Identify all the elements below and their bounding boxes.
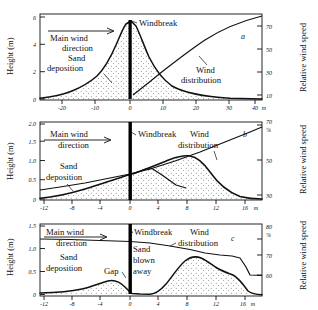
panel-c-gap-label: Gap	[104, 266, 118, 276]
panel-b-xtick-3: 0	[129, 205, 132, 211]
panel-a-xtick-3: 10	[160, 105, 166, 111]
panel-a-sand-label: Sand	[68, 53, 86, 63]
panel-c-ytick-3: 1.5	[29, 223, 37, 229]
panel-c-main-wind-label: Main wind	[46, 227, 85, 237]
panel-c-y-axis-title: Height (m)	[5, 238, 15, 276]
panel-b-xtick-2: -4	[98, 205, 103, 211]
panel-c-blown-label: blown	[133, 255, 155, 265]
panel-b-distribution-label: distribution	[178, 140, 219, 150]
panel-c-xtick-3: 0	[129, 301, 132, 307]
panel-b-windbreak-post	[129, 122, 132, 200]
panel-b-wind-label: Wind	[190, 129, 210, 139]
panel-c-letter: c	[231, 234, 235, 243]
panel-b-xtick-4: 4	[157, 205, 160, 211]
panel-c-deposition-label: deposition	[46, 263, 83, 273]
panel-a-x-axis: -20 -10 0 10 20 30 40 m	[58, 100, 267, 111]
panel-c-y2tick-0: 60	[266, 273, 272, 279]
panel-b-y2tick-0: 30	[265, 193, 272, 199]
panel-c-xtick-5: 8	[186, 301, 189, 307]
panel-a-y2tick-2: 50	[266, 47, 272, 53]
panel-c-xtick-4: 4	[157, 301, 160, 307]
panel-a-wind-label: Wind	[196, 65, 216, 75]
panel-a: 0 2 4 6 10 30 50 70	[0, 0, 318, 112]
panel-b-xtick-6: 12	[213, 205, 219, 211]
panel-c: 0 0.5 1.0 1.5 60 70 80 %	[0, 212, 318, 310]
panel-a-xtick-0: -20	[58, 105, 66, 111]
panel-b-xtick-5: 8	[186, 205, 189, 211]
panel-a-xtick-4: 20	[193, 105, 199, 111]
panel-c-y2tick-1: 70	[266, 253, 272, 259]
panel-b-xtick-7: 16	[242, 205, 248, 211]
panel-c-xtick-1: -8	[70, 301, 75, 307]
panel-b-xtick-1: -8	[70, 205, 75, 211]
windbreak-figure: 0 2 4 6 10 30 50 70	[0, 0, 318, 310]
panel-a-xtick-2: 0	[129, 105, 132, 111]
panel-b-plot: 0 0.5 1.0 1.5 2.0 30 50 70 %	[0, 112, 318, 212]
panel-c-x-axis: -12 -8 -4 0 4 8 12 16 m	[40, 296, 256, 307]
panel-a-ytick-1: 2	[33, 69, 36, 75]
panel-b-y-axis-title: Height (m)	[5, 142, 15, 180]
panel-b-xtick-0: -12	[40, 205, 48, 211]
panel-c-y2-unit: %	[266, 232, 271, 238]
panel-a-y-axis-title: Height (m)	[5, 37, 15, 75]
panel-c-y2-axis: 60 70 80 %	[257, 224, 272, 279]
panel-b: 0 0.5 1.0 1.5 2.0 30 50 70 %	[0, 112, 318, 212]
panel-c-xtick-0: -12	[40, 301, 48, 307]
panel-c-ytick-2: 1.0	[29, 246, 37, 252]
panel-c-y2-axis-title: Relative wind speed	[298, 220, 308, 290]
panel-b-windbreak-label: Windbreak	[138, 129, 177, 139]
panel-b-direction-label: direction	[58, 140, 90, 150]
panel-b-y2-axis: 30 50 70 %	[257, 119, 272, 199]
panel-b-y2-axis-title: Relative wind speed	[298, 124, 308, 194]
panel-a-deposition-label: deposition	[47, 63, 84, 73]
panel-a-ytick-0: 0	[33, 97, 36, 103]
panel-a-main-wind-label: Main wind	[50, 33, 89, 43]
panel-a-ytick-2: 4	[33, 42, 36, 48]
panel-c-x-unit: m	[251, 301, 256, 307]
panel-a-y2tick-3: 70	[266, 24, 272, 30]
panel-b-ytick-1: 0.5	[29, 177, 37, 183]
panel-b-ytick-4: 2.0	[29, 121, 37, 127]
panel-c-direction-label: direction	[56, 238, 88, 248]
panel-a-ytick-3: 6	[33, 15, 36, 21]
panel-a-y2tick-1: 30	[265, 70, 272, 76]
panel-a-xtick-1: -10	[91, 105, 99, 111]
panel-a-xtick-6: 40	[252, 105, 258, 111]
panel-a-y-axis: 0 2 4 6	[33, 15, 45, 103]
panel-c-y2tick-2: 80	[266, 224, 272, 230]
panel-c-ytick-0: 0	[33, 292, 36, 298]
panel-a-xtick-5: 30	[225, 105, 232, 111]
panel-a-letter: a	[241, 32, 245, 41]
panel-a-x-unit: m	[262, 105, 267, 111]
panel-a-y2-axis-title: Relative wind speed	[298, 22, 308, 92]
panel-b-y2tick-2: 70	[266, 119, 272, 125]
panel-c-sand-label: Sand	[60, 252, 78, 262]
panel-c-away-label: away	[133, 266, 152, 276]
panel-c-sand-blown-label: Sand	[133, 244, 151, 254]
panel-c-xtick-6: 12	[213, 301, 219, 307]
panel-c-y-axis: 0 0.5 1.0 1.5	[29, 223, 46, 298]
panel-b-letter: b	[243, 130, 247, 139]
panel-c-xtick-7: 16	[240, 301, 246, 307]
panel-b-ytick-2: 1.0	[29, 158, 37, 164]
panel-a-y2tick-0: 10	[266, 93, 272, 99]
panel-a-windbreak-post	[129, 20, 132, 99]
panel-c-windbreak-label: Windbreak	[134, 227, 173, 237]
panel-a-direction-label: direction	[62, 43, 94, 53]
panel-c-wind-label: Wind	[190, 227, 210, 237]
panel-b-ytick-3: 1.5	[29, 139, 37, 145]
panel-b-x-unit: m	[254, 205, 259, 211]
panel-b-y2tick-1: 50	[266, 158, 272, 164]
panel-c-ytick-1: 0.5	[29, 269, 37, 275]
panel-b-y2-unit: %	[266, 127, 271, 133]
panel-b-sand-label: Sand	[60, 161, 78, 171]
panel-a-y2-axis: 10 30 50 70	[257, 24, 272, 99]
panel-c-plot: 0 0.5 1.0 1.5 60 70 80 %	[0, 212, 318, 310]
panel-b-main-wind-label: Main wind	[50, 129, 89, 139]
panel-c-distribution-label: distribution	[178, 238, 219, 248]
panel-b-y-axis: 0 0.5 1.0 1.5 2.0	[29, 121, 46, 203]
panel-b-deposition-label: deposition	[46, 172, 83, 182]
panel-b-x-axis: -12 -8 -4 0 4 8 12 16 m	[40, 200, 259, 211]
panel-a-distribution-label: distribution	[181, 75, 222, 85]
panel-a-windbreak-label: Windbreak	[139, 18, 178, 28]
